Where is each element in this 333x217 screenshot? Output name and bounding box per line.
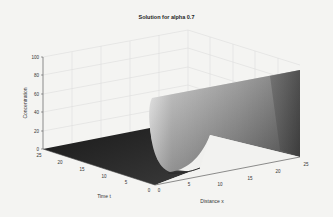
t-axis-label: Time t — [97, 193, 111, 199]
z-tick-20: 20 — [34, 129, 40, 134]
t-tick-10: 10 — [101, 174, 107, 179]
x-tick-20: 20 — [275, 169, 281, 174]
z-tick-60: 60 — [34, 92, 40, 97]
x-tick-15: 15 — [247, 176, 253, 181]
x-tick-5: 5 — [188, 182, 191, 187]
x-tick-0: 0 — [158, 188, 161, 193]
t-tick-20: 20 — [57, 160, 63, 165]
x-tick-10: 10 — [217, 182, 223, 187]
t-tick-25: 25 — [36, 153, 42, 158]
t-tick-5: 5 — [125, 180, 128, 185]
t-tick-15: 15 — [79, 167, 85, 172]
z-tick-40: 40 — [34, 110, 40, 115]
z-tick-80: 80 — [34, 73, 40, 78]
t-tick-0: 0 — [148, 188, 151, 193]
x-tick-25: 25 — [303, 162, 309, 167]
z-tick-0: 0 — [36, 147, 39, 152]
surface-plot: 0 20 40 60 80 100 Concentration 25 20 15… — [0, 0, 333, 217]
z-tick-100: 100 — [31, 55, 39, 60]
z-axis-label: Concentration — [22, 87, 28, 118]
x-axis-label: Distance x — [200, 198, 224, 204]
